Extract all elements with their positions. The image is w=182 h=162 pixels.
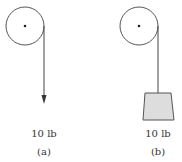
force-label-b: 10 lb — [145, 128, 171, 139]
pulley-axle-b — [138, 25, 141, 28]
hanging-weight-icon — [143, 93, 174, 120]
pulley-axle-a — [24, 25, 27, 28]
caption-a: (a) — [37, 146, 51, 157]
caption-b: (b) — [151, 146, 165, 157]
pulley-diagram: 10 lb (a) 10 lb (b) — [0, 0, 182, 162]
force-arrow-icon — [42, 95, 47, 104]
force-label-a: 10 lb — [31, 128, 57, 139]
panel-a: 10 lb (a) — [6, 7, 57, 157]
panel-b: 10 lb (b) — [120, 7, 174, 157]
